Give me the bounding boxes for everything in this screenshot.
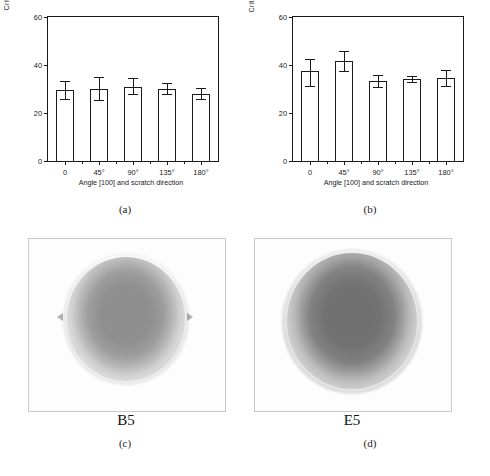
indentation-halo-d — [282, 249, 422, 394]
micrograph-panel-d — [254, 238, 452, 412]
x-tick-label-b-2: 90° — [372, 168, 383, 177]
error-bar-cap-top — [373, 75, 383, 76]
error-bar-cap-bottom — [373, 87, 383, 88]
x-tick-label-a-1: 45° — [93, 168, 104, 177]
y-tick-label-b-2: 40 — [279, 61, 287, 70]
x-tick-label-a-2: 90° — [127, 168, 138, 177]
error-bar-cap-top — [94, 77, 104, 78]
y-tick-a-3 — [44, 17, 48, 18]
y-tick-a-0 — [44, 161, 48, 162]
x-minor-tick-a-4 — [184, 161, 185, 164]
y-tick-label-a-1: 20 — [34, 109, 42, 118]
x-tick-a-1 — [99, 161, 100, 165]
x-minor-tick-b-4 — [429, 161, 430, 164]
y-tick-b-3 — [289, 17, 293, 18]
x-tick-b-3 — [412, 161, 413, 165]
x-tick-b-4 — [446, 161, 447, 165]
error-bar-cap-top — [407, 76, 417, 77]
left-arrow-marker-icon — [57, 313, 63, 321]
error-bar-cap-bottom — [162, 94, 172, 95]
subfigure-caption-b: (b) — [340, 203, 400, 215]
error-bar-cap-bottom — [196, 99, 206, 100]
figure-root: Critical load (N) 0204060045°90°135°180°… — [0, 0, 490, 476]
x-axis-label-b: Angle [100] and scratch direction — [267, 178, 485, 187]
y-axis-label-b: Critical load (N) — [247, 0, 259, 36]
x-minor-tick-b-1 — [327, 161, 328, 164]
bar-b-3 — [403, 79, 421, 161]
error-bar-stem — [65, 81, 66, 100]
x-tick-label-b-4: 180° — [438, 168, 453, 177]
bar-a-0 — [56, 90, 74, 161]
error-bar-stem — [133, 78, 134, 95]
x-minor-tick-a-2 — [116, 161, 117, 164]
error-bar-cap-bottom — [94, 100, 104, 101]
x-minor-tick-b-2 — [361, 161, 362, 164]
error-bar-cap-bottom — [128, 94, 138, 95]
plot-area-b: 0204060045°90°135°180° — [292, 16, 464, 162]
y-tick-label-b-0: 0 — [283, 157, 287, 166]
x-minor-tick-a-1 — [82, 161, 83, 164]
error-bar-cap-top — [60, 81, 70, 82]
x-tick-a-0 — [65, 161, 66, 165]
error-bar-cap-bottom — [305, 86, 315, 87]
error-bar-cap-top — [339, 51, 349, 52]
x-tick-b-1 — [344, 161, 345, 165]
x-tick-a-4 — [201, 161, 202, 165]
error-bar-cap-top — [162, 83, 172, 84]
error-bar-cap-bottom — [339, 71, 349, 72]
micrograph-panel-c — [28, 238, 226, 412]
subfigure-caption-c: (c) — [95, 437, 155, 449]
chart-panel-b: Critical load (N) 0204060045°90°135°180°… — [245, 0, 490, 195]
bar-b-1 — [335, 61, 353, 161]
bar-a-3 — [158, 89, 176, 161]
x-tick-a-2 — [133, 161, 134, 165]
y-tick-b-2 — [289, 65, 293, 66]
right-arrow-marker-icon — [187, 313, 193, 321]
error-bar-stem — [446, 70, 447, 87]
bar-a-2 — [124, 87, 142, 161]
plot-wrap-a: Critical load (N) 0204060045°90°135°180°… — [0, 0, 245, 195]
x-axis-label-a: Angle [100] and scratch direction — [22, 178, 240, 187]
x-tick-label-b-3: 135° — [404, 168, 419, 177]
error-bar-stem — [344, 51, 345, 73]
error-bar-cap-bottom — [407, 82, 417, 83]
subfigure-caption-a: (a) — [95, 203, 155, 215]
bar-a-4 — [192, 94, 210, 161]
x-tick-label-a-0: 0 — [63, 168, 67, 177]
indentation-halo-c — [63, 253, 189, 385]
x-tick-b-0 — [310, 161, 311, 165]
x-minor-tick-b-3 — [395, 161, 396, 164]
error-bar-stem — [310, 59, 311, 87]
plot-area-a: 0204060045°90°135°180° — [47, 16, 219, 162]
plot-wrap-b: Critical load (N) 0204060045°90°135°180°… — [245, 0, 490, 195]
x-tick-label-b-0: 0 — [308, 168, 312, 177]
error-bar-cap-bottom — [60, 99, 70, 100]
x-tick-a-3 — [167, 161, 168, 165]
x-tick-label-b-1: 45° — [338, 168, 349, 177]
y-tick-label-b-1: 20 — [279, 109, 287, 118]
y-tick-label-a-3: 60 — [34, 13, 42, 22]
chart-panel-a: Critical load (N) 0204060045°90°135°180°… — [0, 0, 245, 195]
y-tick-a-2 — [44, 65, 48, 66]
error-bar-cap-bottom — [441, 86, 451, 87]
y-tick-b-0 — [289, 161, 293, 162]
error-bar-cap-top — [128, 78, 138, 79]
error-bar-cap-top — [441, 70, 451, 71]
y-tick-label-a-2: 40 — [34, 61, 42, 70]
bar-b-2 — [369, 81, 387, 161]
y-axis-label-a: Critical load (N) — [2, 0, 14, 34]
error-bar-stem — [99, 77, 100, 101]
error-bar-cap-top — [305, 59, 315, 60]
error-bar-cap-top — [196, 88, 206, 89]
subfigure-caption-d: (d) — [340, 437, 400, 449]
y-tick-b-1 — [289, 113, 293, 114]
y-tick-label-b-3: 60 — [279, 13, 287, 22]
x-tick-label-a-4: 180° — [193, 168, 208, 177]
y-tick-label-a-0: 0 — [38, 157, 42, 166]
y-tick-a-1 — [44, 113, 48, 114]
bar-b-4 — [437, 78, 455, 161]
x-minor-tick-a-3 — [150, 161, 151, 164]
x-tick-label-a-3: 135° — [159, 168, 174, 177]
x-tick-b-2 — [378, 161, 379, 165]
